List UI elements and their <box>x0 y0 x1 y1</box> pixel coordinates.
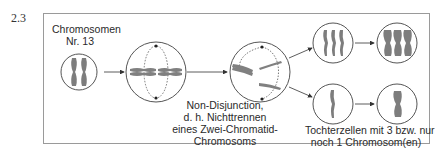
label-nondisjunction-line2: d. h. Nichttrennen <box>170 111 280 123</box>
daughter-cell-upper-replicated <box>377 23 417 63</box>
cell-membrane-initial <box>61 54 97 90</box>
cell-anaphase-nondisjunction <box>230 42 290 102</box>
daughter-cell-lower-replicated <box>377 84 417 124</box>
chromosomes-trisomy <box>383 30 411 56</box>
chromatids-upper <box>323 30 344 56</box>
label-nondisjunction-line3: eines Zwei-Chromatid- <box>170 123 280 135</box>
cell-metaphase <box>126 42 186 102</box>
label-chromosome-line2: Nr. 13 <box>52 35 108 47</box>
spindle <box>144 46 168 98</box>
chromosomes-metaphase <box>130 68 182 76</box>
centrosome-bottom <box>154 96 157 99</box>
label-nondisjunction-line4: Chromosoms <box>170 135 280 147</box>
chromosome-monosomy <box>393 91 401 117</box>
label-daughter-cells: Tochterzellen mit 3 bzw. nur noch 1 Chro… <box>305 124 427 148</box>
spindle-right <box>262 47 279 99</box>
label-nondisjunction-line1: Non-Disjunction, <box>170 99 280 111</box>
chromosomes-anaphase <box>232 61 282 90</box>
arrow-3-lower <box>289 87 312 97</box>
chromosome-pair-initial <box>71 58 87 86</box>
daughter-cell-upper <box>313 23 353 63</box>
cell-initial <box>61 54 97 90</box>
arrow-3-upper <box>289 48 312 58</box>
label-nondisjunction: Non-Disjunction, d. h. Nichttrennen eine… <box>170 99 280 147</box>
label-daughter-line1: Tochterzellen mit 3 bzw. nur <box>305 124 427 136</box>
label-daughter-line2: noch 1 Chromosom(en) <box>305 136 427 148</box>
label-chromosome-line1: Chromosomen <box>52 23 108 35</box>
daughter-cell-lower <box>313 84 353 124</box>
chromatid-lower <box>330 90 335 118</box>
centrosome-top <box>154 44 157 47</box>
centrosome-top <box>260 45 263 48</box>
label-chromosome: Chromosomen Nr. 13 <box>52 23 108 47</box>
